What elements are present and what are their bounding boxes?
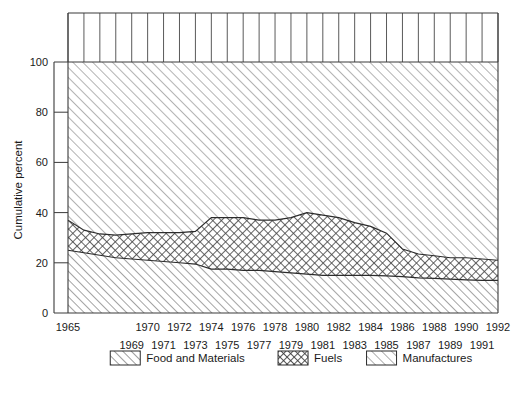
y-tick-label: 100 [30, 56, 48, 68]
y-tick-label: 0 [42, 307, 48, 319]
x-tick-label-top: 1970 [135, 321, 159, 333]
x-tick-label-top: 1980 [295, 321, 319, 333]
legend-swatch [367, 351, 397, 365]
x-tick-label-top: 1974 [199, 321, 223, 333]
chart-legend: Food and MaterialsFuelsManufactures [110, 351, 472, 365]
x-tick-label-bottom: 1985 [374, 339, 398, 351]
x-tick-label-top: 1988 [422, 321, 446, 333]
x-axis-tick-labels: 1965197019721974197619781980198219841986… [56, 321, 510, 351]
y-tick-label: 80 [36, 106, 48, 118]
x-tick-label-bottom: 1969 [119, 339, 143, 351]
y-tick-label: 60 [36, 156, 48, 168]
x-tick-label-top: 1992 [486, 321, 510, 333]
x-tick-label-bottom: 1987 [406, 339, 430, 351]
x-tick-label-bottom: 1981 [311, 339, 335, 351]
legend-item[interactable]: Food and Materials [110, 351, 245, 365]
x-tick-label-bottom: 1991 [470, 339, 494, 351]
cumulative-percent-area-chart: 020406080100 196519701972197419761978198… [0, 0, 530, 396]
x-tick-label-top: 1972 [167, 321, 191, 333]
y-tick-label: 20 [36, 257, 48, 269]
x-tick-label-top: 1984 [358, 321, 382, 333]
plot-areas [68, 62, 498, 313]
legend-swatch [110, 351, 140, 365]
x-tick-label-top: 1976 [231, 321, 255, 333]
x-tick-label-bottom: 1973 [183, 339, 207, 351]
top-gridline-band [68, 13, 498, 62]
legend-item[interactable]: Fuels [278, 351, 342, 365]
x-tick-label-bottom: 1983 [342, 339, 366, 351]
x-tick-label-bottom: 1979 [279, 339, 303, 351]
y-tick-label: 40 [36, 207, 48, 219]
x-tick-label-top: 1986 [390, 321, 414, 333]
x-tick-label-top: 1982 [326, 321, 350, 333]
legend-label: Manufactures [403, 352, 473, 364]
x-tick-label-top: 1978 [263, 321, 287, 333]
legend-item[interactable]: Manufactures [367, 351, 473, 365]
x-tick-label-top: 1990 [454, 321, 478, 333]
x-tick-label-bottom: 1977 [247, 339, 271, 351]
legend-label: Fuels [314, 352, 342, 364]
legend-swatch [278, 351, 308, 365]
y-axis-tick-labels: 020406080100 [30, 56, 48, 319]
x-tick-label-bottom: 1971 [151, 339, 175, 351]
legend-label: Food and Materials [146, 352, 245, 364]
x-tick-label-bottom: 1989 [438, 339, 462, 351]
y-axis-ticks [54, 62, 68, 313]
y-axis-title: Cumulative percent [12, 140, 24, 240]
x-tick-label-top: 1965 [56, 321, 80, 333]
chart-container: 020406080100 196519701972197419761978198… [0, 0, 530, 396]
x-tick-label-bottom: 1975 [215, 339, 239, 351]
